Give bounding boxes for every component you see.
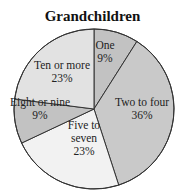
slice-label-one: One9%	[95, 39, 114, 64]
pie-chart: One9%Two to four36%Five toseven23%Eight …	[0, 0, 185, 196]
